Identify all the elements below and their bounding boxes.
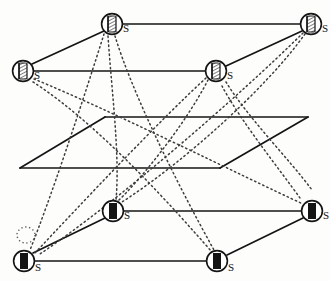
edge-n1-to-n5 (108, 36, 117, 200)
plane-top-edge-right (226, 31, 302, 66)
node-label-bottom-front-right: S (228, 262, 234, 273)
node-label-top-front-left: S (34, 70, 40, 81)
node-top-back-left[interactable] (102, 14, 123, 35)
node-label-bottom-back-right: S (323, 210, 329, 221)
edge-n4-to-n5 (118, 80, 208, 201)
plane-middle-edge-left (20, 117, 105, 168)
node-label-top-front-right: S (227, 70, 233, 81)
node-bottom-front-right[interactable] (207, 251, 228, 272)
node-label-top-back-left: S (123, 23, 129, 34)
plane-top (32, 24, 302, 71)
node-top-back-right[interactable] (301, 14, 322, 35)
plane-top-edge-left (32, 31, 104, 64)
node-bottom-back-right[interactable] (302, 201, 323, 222)
diagram-canvas: S S S S S S S S (0, 0, 331, 281)
edge-n4-to-n7 (34, 78, 206, 254)
node-label-bottom-back-left: S (124, 210, 130, 221)
edge-n2-to-n5 (122, 34, 305, 202)
node-label-top-back-right: S (322, 23, 328, 34)
node-top-front-left[interactable] (13, 61, 34, 82)
node-label-bottom-front-left: S (35, 262, 41, 273)
node-bottom-back-left[interactable] (103, 201, 124, 222)
plane-middle (20, 117, 308, 168)
plane-bottom-edge-right (227, 218, 303, 255)
edge-n4-to-n6 (222, 86, 300, 198)
plane-bottom-edge-left (33, 218, 105, 253)
self-loop-bottom-front-left (17, 227, 35, 243)
node-bottom-front-left[interactable] (14, 251, 35, 272)
diagram-svg (0, 0, 331, 281)
edge-n1-to-n7 (30, 34, 104, 250)
inter-layer-edges (30, 33, 312, 254)
plane-bottom (33, 211, 303, 261)
node-top-front-right[interactable] (206, 61, 227, 82)
plane-middle-edge-right (220, 117, 308, 168)
